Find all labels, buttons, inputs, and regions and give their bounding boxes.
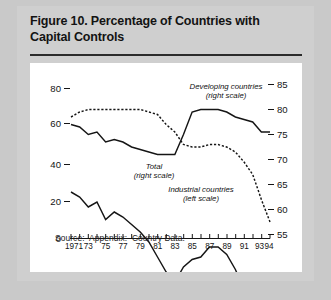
annotation-industrial-line-2: (left scale) <box>183 194 219 203</box>
left-tick-20: 20 <box>50 196 61 207</box>
right-tick-85: 85 <box>277 79 288 90</box>
figure-title: Figure 10. Percentage of Countries with … <box>30 14 302 45</box>
xtick-81: 81 <box>153 242 163 251</box>
source-note: Source: Appendix: Country Data. <box>55 233 185 243</box>
xtick-77: 77 <box>118 242 128 251</box>
xtick-83: 83 <box>170 242 180 251</box>
xtick-93: 93 <box>255 242 265 251</box>
xtick-73: 73 <box>84 242 94 251</box>
right-tick-80: 80 <box>277 104 288 115</box>
series-industrial-countries-line <box>71 192 270 272</box>
left-tick-80: 80 <box>50 83 61 94</box>
xtick-91: 91 <box>240 242 250 251</box>
series-total-line <box>71 110 270 155</box>
xtick-79: 79 <box>136 242 146 251</box>
xtick-85: 85 <box>188 242 198 251</box>
left-axis-group: 80 60 40 20 0 <box>50 83 70 244</box>
right-tick-60: 60 <box>277 204 288 215</box>
annotation-total-line-2: (right scale) <box>134 171 175 180</box>
plot-annotations: Developing countries (right scale) Total… <box>134 82 263 203</box>
xtick-89: 89 <box>222 242 232 251</box>
annotation-industrial-line-1: Industrial countries <box>168 185 234 194</box>
xtick-94: 94 <box>264 242 274 251</box>
figure-title-line-1: Figure 10. Percentage of Countries with <box>30 14 260 28</box>
annotation-developing-line-2: (right scale) <box>206 91 247 100</box>
title-divider <box>30 54 302 56</box>
figure-title-line-2: Capital Controls <box>30 30 124 44</box>
series-developing-countries-line <box>71 110 270 223</box>
annotation-total-line-1: Total <box>146 162 163 171</box>
right-tick-55: 55 <box>277 229 288 240</box>
right-tick-65: 65 <box>277 179 288 190</box>
xtick-1971: 1971 <box>65 242 84 251</box>
right-tick-75: 75 <box>277 129 288 140</box>
left-tick-60: 60 <box>50 118 61 129</box>
right-axis-group: 85 80 75 70 65 60 55 <box>268 79 288 240</box>
annotation-developing-line-1: Developing countries <box>190 82 263 91</box>
left-tick-40: 40 <box>50 159 61 170</box>
xtick-75: 75 <box>101 242 111 251</box>
plot-area-card: 80 60 40 20 0 85 80 75 70 65 60 55 <box>30 63 302 272</box>
figure-card: Figure 10. Percentage of Countries with … <box>17 6 314 281</box>
right-tick-70: 70 <box>277 154 288 165</box>
